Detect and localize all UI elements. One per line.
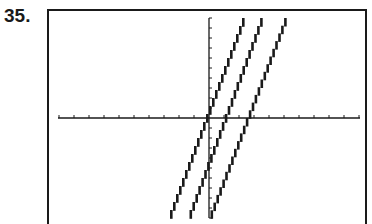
graph-plot xyxy=(0,0,372,224)
